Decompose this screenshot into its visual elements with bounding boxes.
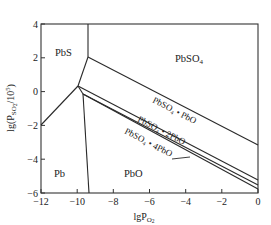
- boundary-pbs-oxysulfate: [78, 57, 88, 86]
- x-tick-label: −10: [69, 196, 85, 207]
- x-tick-label: −8: [108, 196, 119, 207]
- y-tick-label: 0: [33, 86, 38, 97]
- x-tick-label: −4: [180, 196, 191, 207]
- region-label-pbo: PbO: [124, 168, 143, 179]
- x-tick-label: −12: [33, 196, 49, 207]
- y-tick-label: −4: [27, 154, 38, 165]
- region-label-pbs: PbS: [55, 47, 72, 58]
- y-tick-label: 4: [33, 19, 38, 30]
- x-axis-ticks: [41, 189, 258, 193]
- boundary-pbs-pb: [41, 86, 78, 125]
- region-label-pb: Pb: [54, 168, 65, 179]
- x-axis-tick-labels: −12 −10 −8 −6 −4 −2 0: [33, 196, 260, 207]
- y-axis-ticks: [41, 24, 45, 193]
- y-tick-label: −2: [27, 120, 38, 131]
- region-label-pbso4: PbSO4: [175, 53, 204, 66]
- x-tick-label: 0: [256, 196, 261, 207]
- label-leader-line: [172, 157, 190, 159]
- y-axis-title: lg(PSO2/105): [4, 84, 18, 132]
- x-tick-label: −6: [144, 196, 155, 207]
- x-tick-label: −2: [216, 196, 227, 207]
- phase-diagram: 4 2 0 −2 −4 −6 −12 −10 −8 −6 −4 −2 0: [0, 0, 271, 225]
- x-axis-title: lgPO2: [133, 211, 154, 224]
- y-tick-label: 2: [33, 52, 38, 63]
- boundary-pb-pbo: [83, 94, 89, 193]
- phase-boundaries: [41, 24, 258, 193]
- y-axis-tick-labels: 4 2 0 −2 −4 −6: [27, 19, 38, 199]
